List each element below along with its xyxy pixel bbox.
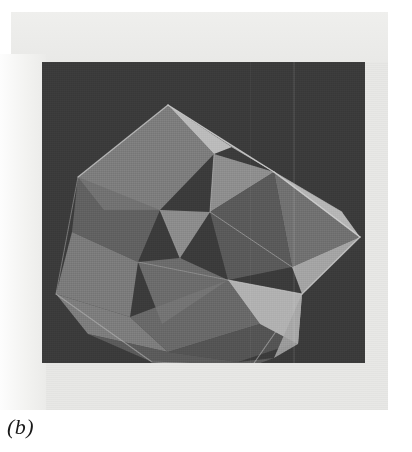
ghost-text-top-line-2 xyxy=(150,36,270,54)
figure-caption: (b) xyxy=(7,414,34,440)
ghost-text-top-line-1 xyxy=(16,26,105,43)
ghost-text-bottom-line-1 xyxy=(14,372,170,390)
polyhedron-illustration xyxy=(42,62,365,363)
facet-inner-left-triangle xyxy=(160,210,210,258)
polyhedron-facet-group xyxy=(56,105,360,363)
figure-page: (b) xyxy=(0,0,412,452)
ghost-text-bottom-line-2 xyxy=(14,392,170,410)
photograph-plate xyxy=(42,62,365,363)
scan-falloff-left xyxy=(0,54,46,410)
